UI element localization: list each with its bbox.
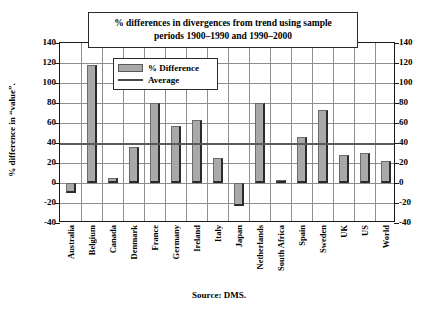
bar-cell <box>312 43 333 221</box>
x-axis-labels: AustraliaBelgiumCanadaDenmarkFranceGerma… <box>59 225 395 287</box>
chart-title: % differences in divergences from trend … <box>88 12 358 48</box>
bar-japan <box>234 183 244 206</box>
bar-uk <box>339 155 349 183</box>
y-tick-label-right: 140 <box>394 38 413 47</box>
y-tick-label-right: 100 <box>394 78 413 87</box>
legend-line-swatch-icon <box>118 79 143 81</box>
y-tick-label-left: 100 <box>43 78 61 87</box>
y-tick-label-left: 20 <box>47 158 60 167</box>
y-tick-label-left: 140 <box>43 38 61 47</box>
y-tick-label-right: 0 <box>394 178 404 187</box>
y-tick-label-left: 120 <box>43 58 61 67</box>
average-line <box>60 143 394 145</box>
y-tick-label-right: 120 <box>394 58 413 67</box>
y-tick-label-left: -40 <box>44 218 60 227</box>
y-tick-label-left: -20 <box>44 198 60 207</box>
x-axis-label-uk: UK <box>339 225 349 238</box>
y-tick-label-right: -20 <box>394 198 411 207</box>
bar-belgium <box>87 65 97 183</box>
bar-cell <box>333 43 354 221</box>
bar-cell <box>228 43 249 221</box>
chart-title-line-2: periods 1900–1990 and 1990–2000 <box>91 30 355 43</box>
bar-sweden <box>318 110 328 183</box>
legend-bar-swatch-icon <box>118 64 143 72</box>
y-tick-label-left: 60 <box>47 118 60 127</box>
legend-item-difference: % Difference <box>118 62 213 74</box>
bar-cell <box>60 43 81 221</box>
legend-label-average: Average <box>148 76 179 85</box>
legend-label-difference: % Difference <box>148 64 199 73</box>
y-tick-label-right: 80 <box>394 98 408 107</box>
plot-area: 140140120120100100808060604040202000-20-… <box>59 42 395 222</box>
bars-layer <box>60 43 394 221</box>
bar-italy <box>213 158 223 183</box>
bar-cell <box>270 43 291 221</box>
x-axis-label-france: France <box>150 225 160 251</box>
bar-germany <box>171 126 181 183</box>
y-tick-label-right: 20 <box>394 158 408 167</box>
bar-cell <box>249 43 270 221</box>
y-tick-label-right: 60 <box>394 118 408 127</box>
y-tick-label-right: 40 <box>394 138 408 147</box>
chart-source: Source: DMS. <box>0 290 438 300</box>
x-axis-label-belgium: Belgium <box>87 225 97 255</box>
x-axis-label-canada: Canada <box>108 225 118 253</box>
x-axis-label-germany: Germany <box>171 225 181 259</box>
x-axis-label-japan: Japan <box>234 225 244 247</box>
x-axis-label-spain: Spain <box>297 225 307 246</box>
chart-title-line-1: % differences in divergences from trend … <box>91 17 355 30</box>
x-axis-label-netherlands: Netherlands <box>255 225 265 269</box>
x-axis-label-denmark: Denmark <box>129 225 139 259</box>
bar-ireland <box>192 120 202 183</box>
bar-cell <box>81 43 102 221</box>
bar-us <box>360 153 370 183</box>
x-axis-label-us: US <box>360 225 370 236</box>
x-axis-label-australia: Australia <box>66 225 76 259</box>
y-axis-title-label: % difference in “value”. <box>7 55 17 205</box>
bar-cell <box>375 43 396 221</box>
y-tick-label-left: 0 <box>52 178 61 187</box>
bar-world <box>381 161 391 183</box>
bar-denmark <box>129 147 139 183</box>
bar-south-africa <box>276 180 286 183</box>
y-tick-label-right: -40 <box>394 218 411 227</box>
bar-canada <box>108 178 118 183</box>
bar-cell <box>354 43 375 221</box>
x-axis-label-italy: Italy <box>213 225 223 242</box>
x-axis-label-south-africa: South Africa <box>276 225 286 271</box>
legend-item-average: Average <box>118 74 213 86</box>
bar-cell <box>291 43 312 221</box>
x-axis-label-ireland: Ireland <box>192 225 202 252</box>
y-axis-title: % difference in “value”. <box>7 0 17 55</box>
x-axis-label-world: World <box>381 225 391 248</box>
chart-figure: % differences in divergences from trend … <box>0 0 438 311</box>
bar-australia <box>66 183 76 193</box>
y-tick-label-left: 80 <box>47 98 60 107</box>
chart-legend: % Difference Average <box>113 58 218 90</box>
y-tick-label-left: 40 <box>47 138 60 147</box>
x-axis-label-sweden: Sweden <box>318 225 328 253</box>
